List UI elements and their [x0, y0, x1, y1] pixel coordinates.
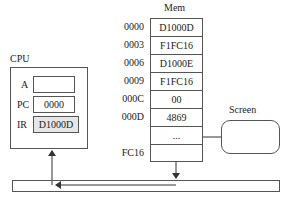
register-a-value	[33, 76, 75, 93]
cpu-box: A PC 0000 IR D1000D	[10, 67, 88, 149]
cpu-title: CPU	[10, 53, 29, 65]
mem-address: 000D	[104, 111, 144, 123]
mem-address: 000C	[104, 93, 144, 105]
register-ir-label: IR	[17, 119, 27, 131]
register-pc-value: 0000	[33, 96, 75, 113]
mem-cell: F1FC16	[151, 73, 202, 91]
register-a-label: A	[21, 79, 28, 91]
mem-cell: D1000D	[151, 19, 202, 37]
mem-address: 0006	[104, 57, 144, 69]
system-bus	[12, 180, 280, 192]
screen-title: Screen	[229, 104, 256, 116]
register-ir-value: D1000D	[33, 116, 79, 133]
memory-title: Mem	[164, 2, 185, 14]
mem-address: 0000	[104, 21, 144, 33]
mem-cell-ellipsis: ...	[151, 127, 202, 145]
mem-cell: F1FC16	[151, 37, 202, 55]
screen-box	[221, 120, 280, 154]
mem-cell: 4869	[151, 109, 202, 127]
mem-cell: D1000E	[151, 55, 202, 73]
mem-address: 0009	[104, 75, 144, 87]
mem-address: 0003	[104, 39, 144, 51]
mem-cell: 00	[151, 91, 202, 109]
memory-box: D1000D F1FC16 D1000E F1FC16 00 4869 ...	[150, 18, 203, 162]
mem-cell	[151, 145, 202, 163]
register-pc-label: PC	[17, 99, 29, 111]
mem-address: FC16	[104, 147, 144, 159]
